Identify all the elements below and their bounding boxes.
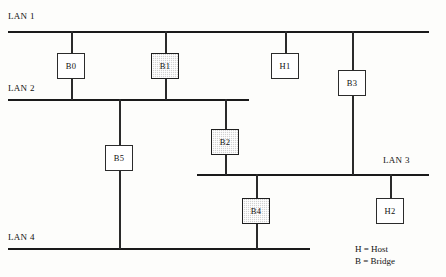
lan-label-lan3: LAN 3: [383, 155, 410, 165]
legend: H = Host B = Bridge: [355, 243, 395, 267]
link-b5-lan4: [119, 171, 121, 249]
lan-label-lan1: LAN 1: [8, 11, 35, 21]
network-diagram: LAN 1 LAN 2 LAN 3 LAN 4 B0 B1 H1 B3 B2 B…: [0, 0, 446, 277]
link-b0-lan2: [71, 79, 73, 100]
link-b3-lan3: [352, 96, 354, 175]
node-h1-label: H1: [280, 61, 291, 71]
node-b0[interactable]: B0: [57, 53, 85, 79]
link-lan3-h2: [390, 174, 392, 198]
lan-label-lan2: LAN 2: [8, 83, 35, 93]
node-b4-label: B4: [251, 206, 261, 216]
node-b4[interactable]: B4: [242, 198, 270, 224]
node-b0-label: B0: [66, 61, 76, 71]
node-b2[interactable]: B2: [211, 129, 239, 155]
node-b3-label: B3: [347, 78, 357, 88]
legend-host-line: H = Host: [355, 243, 395, 255]
node-b3[interactable]: B3: [338, 70, 366, 96]
bus-lan3: [197, 174, 429, 176]
node-b2-label: B2: [220, 137, 230, 147]
link-lan2-b2: [225, 99, 227, 129]
bus-lan4: [8, 248, 310, 250]
link-b1-lan2: [165, 79, 167, 100]
node-h1[interactable]: H1: [271, 53, 299, 79]
node-b1-label: B1: [160, 61, 170, 71]
link-lan1-b0: [71, 31, 73, 53]
link-lan1-h1: [285, 31, 287, 53]
link-lan3-b4: [256, 174, 258, 198]
link-lan1-b1: [165, 31, 167, 53]
node-b5-label: B5: [114, 153, 124, 163]
legend-bridge-line: B = Bridge: [355, 255, 395, 267]
node-h2-label: H2: [385, 206, 396, 216]
node-b5[interactable]: B5: [105, 145, 133, 171]
bus-lan2: [8, 99, 249, 101]
link-b4-lan4: [256, 224, 258, 249]
node-b1[interactable]: B1: [151, 53, 179, 79]
link-lan1-b3: [352, 31, 354, 70]
node-h2[interactable]: H2: [376, 198, 404, 224]
link-lan2-b5: [119, 99, 121, 145]
link-b2-lan3: [225, 155, 227, 175]
lan-label-lan4: LAN 4: [8, 232, 35, 242]
